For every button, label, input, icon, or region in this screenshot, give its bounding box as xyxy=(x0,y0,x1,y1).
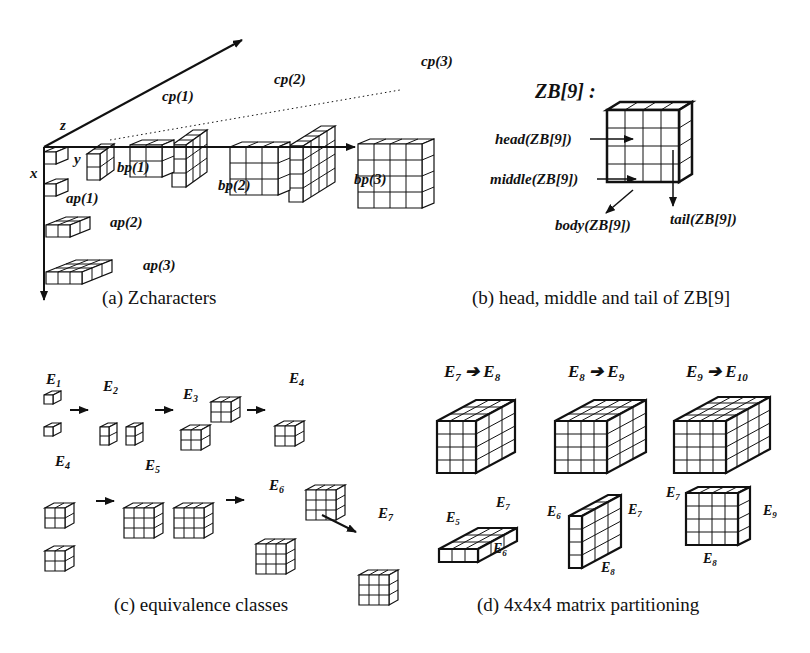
transition-e7-e8: E7 ➔ E8 xyxy=(443,362,501,383)
panel-b: ZB[9] : head(ZB[9]) middle(ZB[9]) body(Z… xyxy=(472,80,737,309)
transition-e8-e9: E8 ➔ E9 xyxy=(567,362,625,383)
cube-drawings xyxy=(44,102,770,605)
label-ap3: ap(3) xyxy=(143,257,176,274)
axis-label-y: y xyxy=(72,151,81,167)
label-bp3: bp(3) xyxy=(354,171,387,188)
label-head: head(ZB[9]) xyxy=(495,131,572,148)
z-axis-arrow xyxy=(44,40,242,147)
label-e3: E3 xyxy=(182,386,198,404)
p1-label-a: E5 xyxy=(445,510,460,527)
body-arrow xyxy=(606,190,633,213)
label-e7: E7 xyxy=(377,505,394,523)
p3-label-b: E9 xyxy=(762,503,777,520)
p3-label-a: E7 xyxy=(665,485,680,502)
label-ap1: ap(1) xyxy=(66,190,99,207)
p3-label-c: E8 xyxy=(702,551,717,568)
dotted-guide xyxy=(110,90,400,140)
label-e4-top: E4 xyxy=(288,370,304,388)
label-cp1: cp(1) xyxy=(162,88,194,105)
label-e1: E1 xyxy=(45,371,61,389)
label-ap2: ap(2) xyxy=(110,214,143,231)
label-e5: E5 xyxy=(144,457,160,475)
zb9-title: ZB[9] : xyxy=(534,80,596,102)
label-e6: E6 xyxy=(268,477,284,495)
caption-d: (d) 4x4x4 matrix partitioning xyxy=(477,594,700,616)
label-bp2: bp(2) xyxy=(218,177,251,194)
label-body: body(ZB[9]) xyxy=(555,217,631,234)
caption-c: (c) equivalence classes xyxy=(114,594,288,616)
axis-label-z: z xyxy=(59,117,66,133)
label-cp2: cp(2) xyxy=(274,71,306,88)
label-bp1: bp(1) xyxy=(117,159,150,176)
caption-b: (b) head, middle and tail of ZB[9] xyxy=(472,287,730,309)
figure-canvas: z y x ap(1) ap(2) ap(3) bp(1) bp(2) bp(3… xyxy=(0,0,810,653)
p2-label-b: E7 xyxy=(627,502,642,519)
label-e2: E2 xyxy=(102,378,118,396)
label-tail: tail(ZB[9]) xyxy=(670,211,737,228)
transition-e9-e10: E9 ➔ E10 xyxy=(685,362,748,383)
p2-label-a: E6 xyxy=(546,504,561,521)
label-e4-bottom: E4 xyxy=(54,453,70,471)
axis-label-x: x xyxy=(29,165,38,181)
label-cp3: cp(3) xyxy=(421,53,453,70)
caption-a: (a) Zcharacters xyxy=(102,287,216,309)
p1-label-b: E7 xyxy=(495,495,510,512)
p2-label-c: E8 xyxy=(600,560,615,577)
label-middle: middle(ZB[9]) xyxy=(490,171,578,188)
